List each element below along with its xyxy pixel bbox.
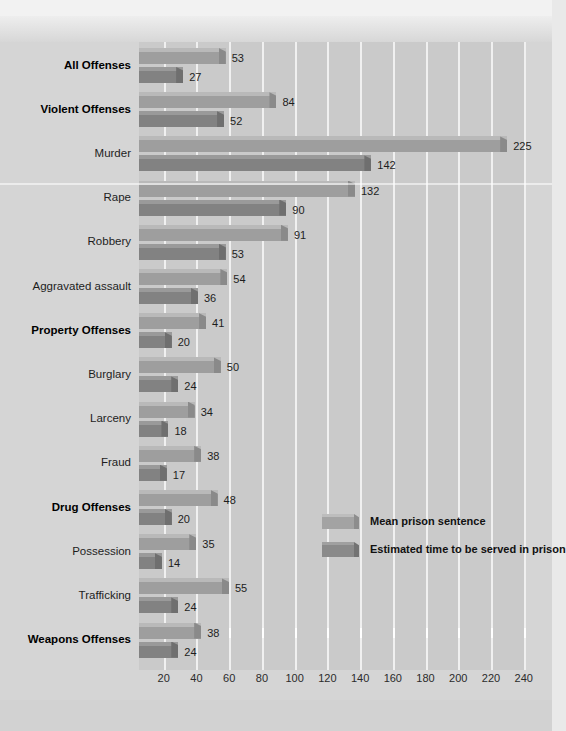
- page-bottom-margin: [0, 700, 552, 731]
- tick-mark-220: [491, 628, 493, 638]
- bar-served-larceny: [139, 421, 168, 437]
- bar-served-robbery: [139, 244, 226, 260]
- bar-mean-fraud: [139, 446, 201, 462]
- bar-served-all-offenses: [139, 67, 183, 83]
- category-label-drug-offenses: Drug Offenses: [0, 501, 139, 513]
- value-label-served-aggravated-assault: 36: [204, 292, 216, 304]
- gridline-240: [524, 42, 526, 670]
- tick-mark-160: [393, 628, 395, 638]
- value-label-mean-weapons-offenses: 38: [207, 627, 219, 639]
- tick-mark-60: [229, 628, 231, 638]
- tick-mark-200: [458, 628, 460, 638]
- tick-mark-240: [524, 628, 526, 638]
- bar-mean-larceny: [139, 402, 195, 418]
- bar-served-aggravated-assault: [139, 288, 198, 304]
- category-label-trafficking: Trafficking: [0, 589, 139, 601]
- legend-label: Mean prison sentence: [370, 515, 486, 527]
- value-label-served-drug-offenses: 20: [178, 513, 190, 525]
- category-label-larceny: Larceny: [0, 412, 139, 424]
- category-label-fraud: Fraud: [0, 456, 139, 468]
- value-label-served-rape: 90: [292, 204, 304, 216]
- legend-swatch-icon: [322, 514, 358, 529]
- value-label-mean-violent-offenses: 84: [282, 96, 294, 108]
- bar-mean-trafficking: [139, 578, 229, 594]
- value-label-served-possession: 14: [168, 557, 180, 569]
- bar-served-violent-offenses: [139, 111, 224, 127]
- tick-mark-80: [262, 628, 264, 638]
- bar-served-burglary: [139, 376, 178, 392]
- value-label-mean-drug-offenses: 48: [224, 494, 236, 506]
- value-label-served-weapons-offenses: 24: [184, 646, 196, 658]
- category-label-all-offenses: All Offenses: [0, 59, 139, 71]
- value-label-mean-rape: 132: [361, 185, 379, 197]
- bar-served-property-offenses: [139, 332, 172, 348]
- bar-mean-burglary: [139, 357, 221, 373]
- value-label-mean-possession: 35: [202, 538, 214, 550]
- value-label-served-robbery: 53: [232, 248, 244, 260]
- bar-mean-all-offenses: [139, 48, 226, 64]
- value-label-mean-robbery: 91: [294, 229, 306, 241]
- scan-seam: [0, 183, 552, 185]
- category-label-weapons-offenses: Weapons Offenses: [0, 633, 139, 645]
- value-label-mean-property-offenses: 41: [212, 317, 224, 329]
- category-label-property-offenses: Property Offenses: [0, 324, 139, 336]
- tick-mark-100: [295, 628, 297, 638]
- value-label-mean-all-offenses: 53: [232, 52, 244, 64]
- x-axis-tick-label-240: 240: [504, 672, 544, 684]
- value-label-served-violent-offenses: 52: [230, 115, 242, 127]
- value-label-mean-fraud: 38: [207, 450, 219, 462]
- tick-mark-120: [327, 628, 329, 638]
- page-top-margin: [0, 0, 552, 16]
- bar-served-fraud: [139, 465, 167, 481]
- value-label-mean-larceny: 34: [201, 406, 213, 418]
- category-label-possession: Possession: [0, 545, 139, 557]
- value-label-mean-trafficking: 55: [235, 582, 247, 594]
- category-label-burglary: Burglary: [0, 368, 139, 380]
- bar-served-trafficking: [139, 597, 178, 613]
- value-label-served-murder: 142: [377, 159, 395, 171]
- category-label-violent-offenses: Violent Offenses: [0, 103, 139, 115]
- bar-mean-robbery: [139, 225, 288, 241]
- bar-mean-property-offenses: [139, 313, 206, 329]
- value-label-mean-burglary: 50: [227, 361, 239, 373]
- bar-served-possession: [139, 553, 162, 569]
- bar-served-rape: [139, 200, 286, 216]
- bar-mean-murder: [139, 136, 507, 152]
- bar-served-murder: [139, 155, 371, 171]
- legend-label: Estimated time to be served in prison: [370, 543, 566, 555]
- bar-mean-aggravated-assault: [139, 269, 227, 285]
- bar-served-drug-offenses: [139, 509, 172, 525]
- bar-mean-drug-offenses: [139, 490, 218, 506]
- value-label-served-larceny: 18: [174, 425, 186, 437]
- value-label-served-fraud: 17: [173, 469, 185, 481]
- value-label-served-burglary: 24: [184, 380, 196, 392]
- value-label-served-trafficking: 24: [184, 601, 196, 613]
- tick-mark-180: [426, 628, 428, 638]
- category-label-murder: Murder: [0, 147, 139, 159]
- category-label-robbery: Robbery: [0, 235, 139, 247]
- page-top-gradient: [0, 16, 552, 42]
- value-label-mean-aggravated-assault: 54: [233, 273, 245, 285]
- bar-mean-weapons-offenses: [139, 623, 201, 639]
- value-label-mean-murder: 225: [513, 140, 531, 152]
- value-label-served-all-offenses: 27: [189, 71, 201, 83]
- bar-served-weapons-offenses: [139, 642, 178, 658]
- category-label-aggravated-assault: Aggravated assault: [0, 280, 139, 292]
- legend-swatch-icon: [322, 542, 358, 557]
- value-label-served-property-offenses: 20: [178, 336, 190, 348]
- bar-mean-violent-offenses: [139, 92, 276, 108]
- tick-mark-140: [360, 628, 362, 638]
- bar-mean-possession: [139, 534, 196, 550]
- category-label-rape: Rape: [0, 191, 139, 203]
